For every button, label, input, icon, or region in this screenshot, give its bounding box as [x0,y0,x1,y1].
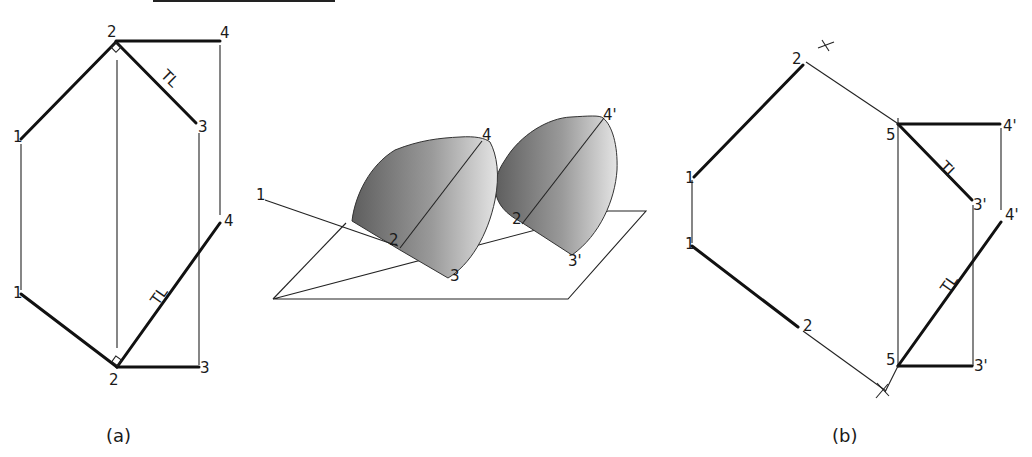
label-1: 1 [13,284,23,302]
solid-prime [495,116,617,255]
label-3: 3 [198,118,208,136]
caption-a: (a) [106,425,131,446]
drawing-svg: 2 4 1 3 TL 4 1 2 3 TL (a) 1 2 3 4 2 3' 4… [0,0,1032,457]
label-3-prime: 3' [568,252,582,270]
panel-b: 2 1 5 4' 3' TL 4' 1 2 5 3' TL (b) [685,40,1019,446]
label-4-prime: 4' [1003,117,1017,135]
edge-5-3p-upper-tl [898,124,972,200]
label-1: 1 [685,169,695,187]
pictorial-view: 1 2 3 4 2 3' 4' [256,106,646,299]
label-1: 1 [13,128,23,146]
label-3-prime: 3' [974,357,988,375]
edge-1-2-lower [692,246,798,327]
plane-left-edge [273,223,346,299]
label-5: 5 [886,126,896,144]
label-2: 2 [109,371,119,389]
label-2: 2 [792,50,802,68]
label-4: 4 [224,212,234,230]
label-4-prime: 4' [1005,206,1019,224]
label-1: 1 [685,235,695,253]
edge-2-3-upper-tl [116,42,196,123]
technical-drawing: 2 4 1 3 TL 4 1 2 3 TL (a) 1 2 3 4 2 3' 4… [0,0,1032,457]
fold-line-lower [803,331,886,391]
edge-1-2-upper [21,42,116,139]
edge-1-2-lower [21,294,117,367]
label-2-prime: 2 [512,210,522,228]
label-3-prime: 3' [973,196,987,214]
label-3: 3 [450,267,460,285]
panel-a: 2 4 1 3 TL 4 1 2 3 TL (a) [13,23,234,446]
label-2: 2 [803,317,813,335]
label-2: 2 [389,231,399,249]
caption-b: (b) [832,425,857,446]
label-1: 1 [256,186,266,204]
label-4: 4 [482,126,492,144]
label-2: 2 [107,23,117,41]
fold-line-upper [806,62,897,123]
label-true-length: TL [935,157,961,183]
label-true-length: TL [936,271,962,297]
label-true-length: TL [146,283,172,309]
label-5: 5 [886,351,896,369]
label-4-prime: 4' [603,106,617,124]
solid [352,137,497,278]
label-3: 3 [200,359,210,377]
edge-1-2-upper [694,65,803,177]
label-4: 4 [220,24,230,42]
tick-mark [876,384,888,398]
fold-line-lower-ext [885,366,898,392]
